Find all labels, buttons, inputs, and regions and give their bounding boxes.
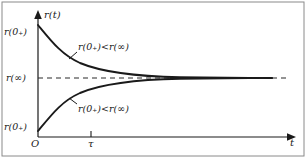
y-tick-label-r-infinity: r(∞) <box>6 73 26 83</box>
plot-canvas <box>0 0 306 158</box>
lower-curve-annotation: r(0₊)<r(∞) <box>78 104 129 114</box>
origin-label: O <box>31 139 39 149</box>
upper-curve-annotation: r(0₊)<r(∞) <box>78 42 129 52</box>
lower-annotation-leader <box>69 98 77 104</box>
y-axis-arrowhead <box>34 10 42 19</box>
y-axis-label: r(t) <box>44 10 61 20</box>
y-tick-label-r0-lower: r(0₊) <box>4 122 27 132</box>
x-axis-label: t <box>290 138 294 148</box>
y-tick-label-r0-upper: r(0₊) <box>4 27 27 37</box>
curve-lower-rising <box>38 78 272 131</box>
upper-annotation-leader <box>69 52 77 59</box>
x-tick-label-tau: τ <box>88 139 94 149</box>
curve-upper-decaying <box>38 25 272 78</box>
figure-container: r(t) r(0₊) r(∞) r(0₊) O τ t r(0₊)<r(∞) r… <box>0 0 306 158</box>
